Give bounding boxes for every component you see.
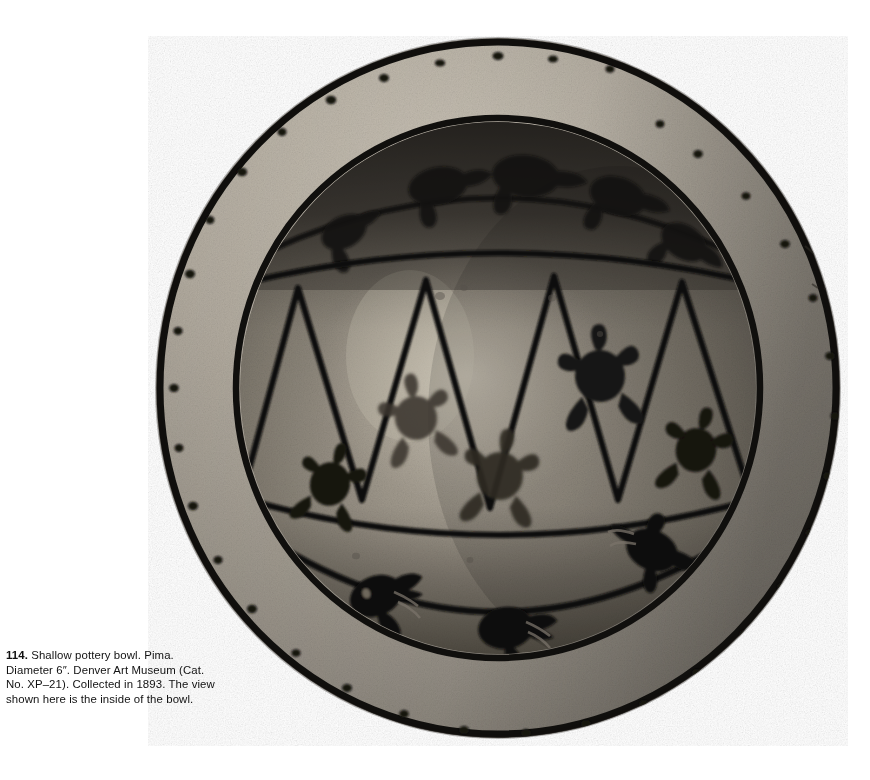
caption-paragraph: 114. Shallow pottery bowl. Pima. Diamete… bbox=[6, 648, 221, 706]
plate-caption: 114. Shallow pottery bowl. Pima. Diamete… bbox=[6, 648, 221, 706]
bowl-photograph bbox=[148, 36, 848, 746]
caption-text: Shallow pottery bowl. Pima. Diameter 6″.… bbox=[6, 649, 215, 705]
plate-page: 114. Shallow pottery bowl. Pima. Diamete… bbox=[0, 0, 870, 780]
bowl-illustration bbox=[148, 36, 848, 746]
plate-number: 114. bbox=[6, 649, 28, 661]
